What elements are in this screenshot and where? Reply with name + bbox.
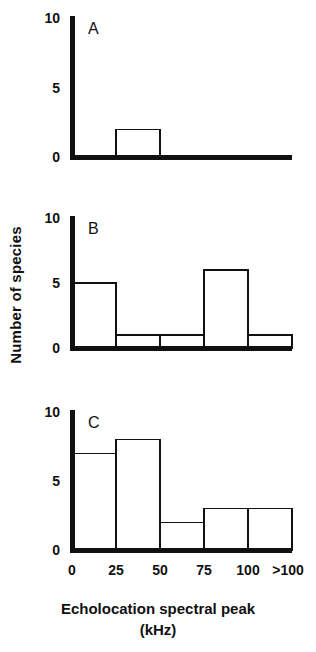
bar bbox=[116, 129, 160, 157]
x-tick-label: 50 bbox=[152, 562, 168, 578]
bar bbox=[204, 270, 248, 348]
bar bbox=[248, 509, 292, 550]
y-tick-label: 5 bbox=[52, 80, 60, 96]
panel-a: 0510A bbox=[44, 10, 292, 165]
y-axis-label-container: Number of species bbox=[0, 205, 30, 385]
x-tick-label: 0 bbox=[68, 562, 76, 578]
panel-c: 0510C bbox=[44, 404, 292, 558]
plot-canvas: 0510A0510B0510C0255075100>100 bbox=[0, 0, 316, 600]
panel-label: C bbox=[88, 414, 100, 431]
histogram-figure: Number of species 0510A0510B0510C0255075… bbox=[0, 0, 316, 652]
y-axis-label: Number of species bbox=[7, 226, 24, 364]
x-axis-title-unit: (kHz) bbox=[0, 619, 316, 640]
panel-b: 0510B bbox=[44, 210, 292, 356]
panel-label: B bbox=[88, 220, 99, 237]
y-tick-label: 10 bbox=[44, 10, 60, 26]
panel-label: A bbox=[88, 20, 99, 37]
bar bbox=[116, 440, 160, 550]
y-tick-label: 0 bbox=[52, 340, 60, 356]
x-tick-label: 25 bbox=[108, 562, 124, 578]
x-tick-label: >100 bbox=[272, 562, 304, 578]
x-axis-title: Echolocation spectral peak (kHz) bbox=[0, 598, 316, 640]
y-tick-label: 0 bbox=[52, 149, 60, 165]
y-tick-label: 0 bbox=[52, 542, 60, 558]
y-tick-label: 5 bbox=[52, 473, 60, 489]
y-tick-label: 10 bbox=[44, 210, 60, 226]
bar bbox=[160, 522, 204, 550]
bar bbox=[72, 453, 116, 550]
y-tick-label: 10 bbox=[44, 404, 60, 420]
bar bbox=[204, 509, 248, 550]
x-tick-label: 100 bbox=[236, 562, 260, 578]
x-tick-label: 75 bbox=[196, 562, 212, 578]
bar bbox=[72, 283, 116, 348]
x-tick-labels: 0255075100>100 bbox=[68, 562, 304, 578]
y-tick-label: 5 bbox=[52, 275, 60, 291]
x-axis-title-main: Echolocation spectral peak bbox=[61, 600, 255, 617]
